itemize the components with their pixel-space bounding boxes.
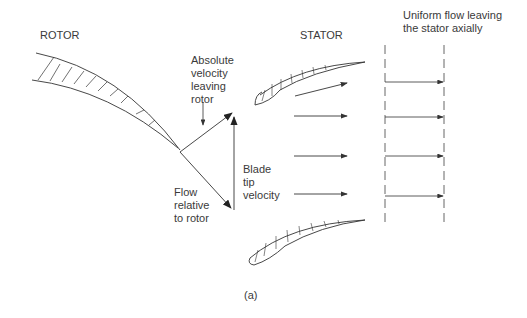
flow-relative-label: Flow relative to rotor [174, 186, 209, 225]
uniform-flow-label: Uniform flow leaving the stator axially [403, 9, 502, 35]
rotor-blade [32, 53, 180, 150]
stator-label: STATOR [300, 29, 343, 42]
stator-flow-arrows [294, 83, 347, 194]
stator-blade-top [255, 62, 365, 105]
blade-tip-velocity-label: Blade tip velocity [243, 163, 280, 202]
uniform-flow-arrows [385, 82, 443, 196]
figure-caption: (a) [244, 289, 257, 302]
uniform-flow-boundaries [385, 45, 444, 222]
rotor-label: ROTOR [40, 29, 80, 42]
absolute-velocity-label: Absolute velocity leaving rotor [191, 54, 234, 106]
rotor-stator-diagram [0, 0, 527, 318]
stator-blade-bottom [249, 220, 365, 265]
